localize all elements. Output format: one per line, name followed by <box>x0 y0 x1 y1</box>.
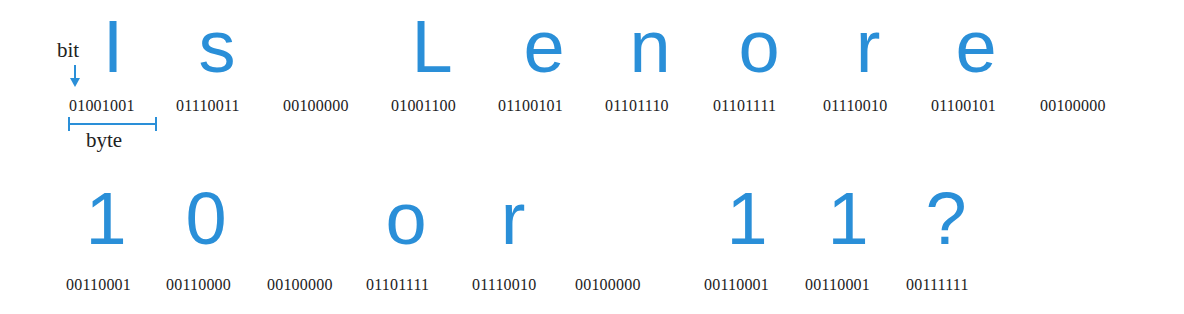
byte-label: byte <box>86 130 122 151</box>
byte-code: 00110000 <box>166 277 231 293</box>
glyph: 0 <box>185 182 226 256</box>
byte-code: 01101111 <box>366 277 429 293</box>
byte-code: 00100000 <box>267 277 333 293</box>
byte-code: 01110011 <box>176 98 240 114</box>
byte-code: 00100000 <box>283 98 349 114</box>
glyph: 1 <box>85 182 126 256</box>
byte-code: 01110010 <box>823 98 887 114</box>
byte-code: 00111111 <box>906 277 969 293</box>
glyph: I <box>103 10 124 84</box>
byte-code: 01100101 <box>498 98 563 114</box>
byte-code: 00110001 <box>66 277 131 293</box>
byte-code: 00100000 <box>575 277 641 293</box>
byte-code: 01001100 <box>391 98 456 114</box>
glyph: 1 <box>827 182 868 256</box>
byte-code: 00110001 <box>704 277 769 293</box>
glyph: n <box>629 10 670 84</box>
glyph: e <box>523 10 564 84</box>
glyph: 1 <box>726 182 767 256</box>
byte-code: 01101111 <box>713 98 776 114</box>
glyph: r <box>501 182 526 256</box>
byte-code: 01101110 <box>605 98 669 114</box>
glyph: o <box>385 182 426 256</box>
glyph: o <box>738 10 779 84</box>
byte-code: 00110001 <box>805 277 870 293</box>
glyph: ? <box>925 182 966 256</box>
glyph: L <box>411 10 452 84</box>
bit-label: bit <box>57 40 79 61</box>
byte-code: 01001001 <box>69 98 135 114</box>
byte-code: 00100000 <box>1040 98 1106 114</box>
glyph: s <box>199 10 236 84</box>
glyph: r <box>856 10 881 84</box>
glyph: e <box>955 10 996 84</box>
byte-code: 01110010 <box>472 277 536 293</box>
byte-code: 01100101 <box>931 98 996 114</box>
